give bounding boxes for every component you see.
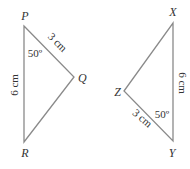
vertex-y-label: Y [169, 146, 177, 160]
side-xy-length: 6 cm [177, 72, 189, 94]
side-pq-length: 3 cm [46, 30, 70, 54]
vertex-q-label: Q [78, 71, 87, 85]
angle-p-measure: 50º [28, 47, 43, 59]
vertex-p-label: P [20, 9, 29, 23]
triangles-diagram: P Q R 6 cm 3 cm 50º X Y Z 6 cm 3 cm 50º [0, 0, 190, 169]
angle-y-measure: 50º [155, 108, 170, 120]
vertex-z-label: Z [114, 85, 121, 99]
vertex-r-label: R [20, 146, 29, 160]
vertex-x-label: X [168, 5, 177, 19]
triangle-pqr: P Q R 6 cm 3 cm 50º [8, 9, 87, 160]
triangle-xyz: X Y Z 6 cm 3 cm 50º [114, 5, 189, 160]
side-pr-length: 6 cm [8, 74, 20, 96]
side-zy-length: 3 cm [130, 106, 155, 129]
